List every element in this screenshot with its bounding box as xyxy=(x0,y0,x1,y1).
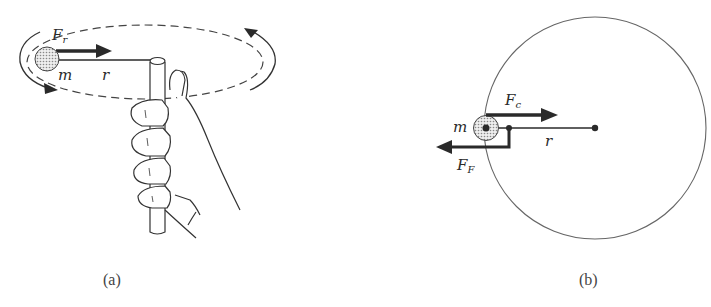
label-centripetal-force: Fc xyxy=(504,91,521,110)
caption-a: (a) xyxy=(103,271,121,289)
label-mass-a: m xyxy=(58,66,72,84)
hand xyxy=(131,70,240,238)
label-radius-a: r xyxy=(102,66,110,84)
centripetal-arrowhead-icon xyxy=(541,108,558,122)
label-radius-b: r xyxy=(545,132,553,150)
panel-a: Fr m r (a) xyxy=(20,25,275,289)
mass-center-dot xyxy=(483,125,490,132)
label-mass-b: m xyxy=(453,118,467,136)
force-arrowhead-a-icon xyxy=(96,44,112,58)
label-reaction-force: FF xyxy=(456,156,475,175)
center-dot xyxy=(592,125,598,131)
reaction-arrowhead-icon xyxy=(436,140,452,154)
caption-b: (b) xyxy=(579,271,598,289)
label-force-a: Fr xyxy=(51,26,68,45)
mass-ball-a xyxy=(35,47,59,71)
rotation-arrow-right-icon xyxy=(250,30,275,90)
figure-canvas: Fr m r (a) Fc m r FF (b) xyxy=(0,0,711,307)
panel-b: Fc m r FF (b) xyxy=(436,17,706,289)
